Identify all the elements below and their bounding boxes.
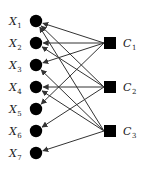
square-node-icon <box>104 81 116 93</box>
variable-node-x5: X5 <box>8 103 42 118</box>
square-node-icon <box>104 37 116 49</box>
variable-node-x7: X7 <box>8 147 42 162</box>
edges-group <box>40 23 104 151</box>
circle-node-icon <box>30 81 42 93</box>
node-label: X3 <box>8 59 22 74</box>
square-node-icon <box>104 125 116 137</box>
variable-node-x6: X6 <box>8 125 42 140</box>
edge-c2-x6 <box>42 87 104 127</box>
circle-node-icon <box>30 15 42 27</box>
circle-node-icon <box>30 125 42 137</box>
variable-node-x4: X4 <box>8 81 42 96</box>
edge-c2-x1 <box>41 26 104 87</box>
circle-node-icon <box>30 147 42 159</box>
edge-c3-x4 <box>42 91 104 131</box>
node-label: X1 <box>8 15 22 30</box>
node-label: X6 <box>8 125 22 140</box>
edge-c3-x7 <box>43 131 104 151</box>
node-label: X7 <box>8 147 22 162</box>
constraint-nodes-group: C1C2C3 <box>104 37 136 140</box>
node-label: C1 <box>123 37 136 52</box>
constraint-node-c1: C1 <box>104 37 136 52</box>
variable-node-x3: X3 <box>8 59 42 74</box>
constraint-node-c3: C3 <box>104 125 136 140</box>
edge-c1-x1 <box>43 23 104 43</box>
constraint-node-c2: C2 <box>104 81 136 96</box>
node-label: X5 <box>8 103 22 118</box>
node-label: C3 <box>123 125 136 140</box>
variable-node-x2: X2 <box>8 37 42 52</box>
circle-node-icon <box>30 37 42 49</box>
variable-nodes-group: X1X2X3X4X5X6X7 <box>8 15 42 162</box>
bipartite-diagram: X1X2X3X4X5X6X7 C1C2C3 <box>0 0 146 176</box>
circle-node-icon <box>30 103 42 115</box>
node-label: C2 <box>123 81 136 96</box>
node-label: X4 <box>8 81 22 96</box>
variable-node-x1: X1 <box>8 15 42 30</box>
circle-node-icon <box>30 59 42 71</box>
node-label: X2 <box>8 37 22 52</box>
